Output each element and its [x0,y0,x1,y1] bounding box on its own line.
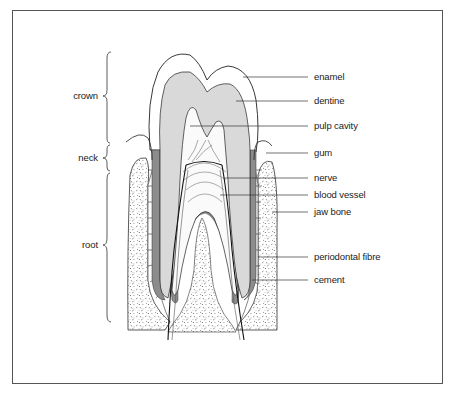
part-label-periodontal-fibre: periodontal fibre [314,251,380,262]
part-label-jaw-bone: jaw bone [314,206,351,217]
part-label-enamel: enamel [314,71,345,82]
part-label-cement: cement [314,274,345,285]
region-braces [103,52,111,322]
region-label-root: root [38,239,98,250]
region-label-crown: crown [38,90,98,101]
part-label-gum: gum [314,147,332,158]
tooth-diagram [0,0,451,395]
part-label-blood-vessel: blood vessel [314,189,366,200]
gum-left [126,135,152,160]
region-label-neck: neck [38,152,98,163]
part-label-pulp-cavity: pulp cavity [314,120,358,131]
part-label-nerve: nerve [314,172,337,183]
part-label-dentine: dentine [314,95,344,106]
